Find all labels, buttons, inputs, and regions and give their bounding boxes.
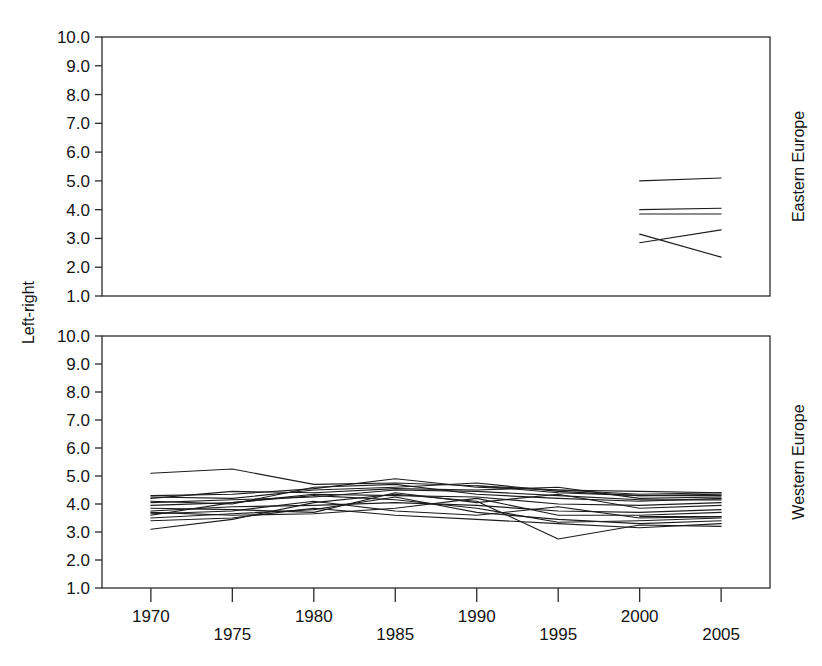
y-tick-label: 10.0 — [57, 28, 90, 47]
panel-eastern-europe: 10.09.08.07.06.05.04.03.02.01.0Eastern E… — [57, 28, 807, 306]
x-tick-label: 1975 — [213, 625, 251, 644]
y-tick-label: 4.0 — [66, 495, 90, 514]
x-tick-label: 1985 — [376, 625, 414, 644]
line-chart-svg: 10.09.08.07.06.05.04.03.02.01.0Eastern E… — [0, 0, 822, 666]
y-tick-label: 3.0 — [66, 523, 90, 542]
y-tick-label: 7.0 — [66, 411, 90, 430]
y-tick-label: 9.0 — [66, 355, 90, 374]
y-tick-label: 3.0 — [66, 229, 90, 248]
series-line — [640, 234, 721, 257]
x-tick-label: 1980 — [295, 607, 333, 626]
y-tick-label: 6.0 — [66, 143, 90, 162]
chart-figure: 10.09.08.07.06.05.04.03.02.01.0Eastern E… — [0, 0, 822, 666]
y-tick-label: 1.0 — [66, 287, 90, 306]
x-tick-label: 2000 — [621, 607, 659, 626]
panel-border — [102, 37, 770, 296]
x-tick-label: 1990 — [458, 607, 496, 626]
y-tick-label: 5.0 — [66, 467, 90, 486]
series-line — [640, 230, 721, 243]
series-line — [640, 208, 721, 209]
y-tick-label: 9.0 — [66, 57, 90, 76]
y-tick-label: 2.0 — [66, 551, 90, 570]
panel-border — [102, 336, 770, 588]
y-tick-label: 5.0 — [66, 172, 90, 191]
y-tick-label: 8.0 — [66, 86, 90, 105]
series-line — [151, 479, 721, 496]
series-line — [640, 178, 721, 181]
y-tick-label: 6.0 — [66, 439, 90, 458]
x-tick-label: 1970 — [132, 607, 170, 626]
y-tick-label: 10.0 — [57, 327, 90, 346]
axis-labels-group: Left-right — [20, 280, 37, 344]
panel-western-europe: 10.09.08.07.06.05.04.03.02.01.0197019751… — [57, 327, 807, 644]
y-tick-label: 1.0 — [66, 579, 90, 598]
y-tick-label: 2.0 — [66, 258, 90, 277]
x-tick-label: 1995 — [539, 625, 577, 644]
x-tick-label: 2005 — [702, 625, 740, 644]
y-axis-label: Left-right — [20, 280, 37, 344]
y-tick-label: 7.0 — [66, 114, 90, 133]
panel-strip-label: Eastern Europe — [790, 111, 807, 222]
y-tick-label: 8.0 — [66, 383, 90, 402]
panel-strip-label: Western Europe — [790, 404, 807, 519]
y-tick-label: 4.0 — [66, 201, 90, 220]
